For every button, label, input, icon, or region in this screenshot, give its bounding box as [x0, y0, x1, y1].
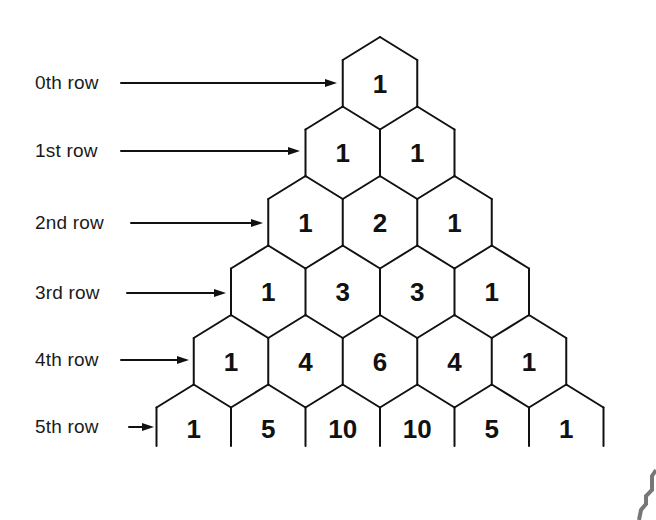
hexagon-edge	[157, 385, 194, 408]
arrowhead-icon	[177, 356, 189, 364]
hexagon-edge	[417, 385, 454, 408]
row-label: 1st row	[35, 141, 98, 160]
hexagon-edge	[417, 176, 454, 199]
hexagon-edge	[417, 107, 454, 130]
hexagon-cell-value: 1	[298, 210, 312, 236]
hexagon-edge	[306, 246, 343, 269]
hexagon-edge	[455, 315, 492, 338]
hexagon-edge	[194, 385, 231, 408]
hexagon-edge	[268, 315, 305, 338]
arrowhead-icon	[251, 219, 263, 227]
hexagon-cell-value: 4	[298, 349, 312, 375]
hexagon-edge	[306, 107, 343, 130]
hexagon-cell-value: 1	[485, 279, 499, 305]
hexagon-edge	[343, 37, 380, 60]
row-label: 5th row	[35, 417, 99, 436]
hexagon-edge	[380, 176, 417, 199]
hexagon-edge	[343, 107, 380, 130]
hexagon-edge	[566, 385, 603, 408]
hexagon-cell-value: 6	[373, 349, 387, 375]
hexagon-cell-value: 3	[336, 279, 350, 305]
hexagon-edge	[492, 315, 529, 338]
hexagon-cell-value: 1	[261, 279, 275, 305]
hexagon-edge	[380, 385, 417, 408]
hexagon-edge	[231, 385, 268, 408]
hexagon-edge	[343, 385, 380, 408]
hexagon-edge	[455, 176, 492, 199]
hexagon-cell-value: 5	[261, 416, 275, 442]
corner-scribble-mark	[639, 470, 656, 520]
hexagon-edge	[417, 315, 454, 338]
pascal-triangle-diagram: 0th row1st row2nd row3rd row4th row5th r…	[0, 0, 656, 520]
hexagon-edge	[268, 246, 305, 269]
hexagon-edge	[492, 385, 529, 408]
arrowhead-icon	[214, 289, 226, 297]
hexagon-edge	[380, 107, 417, 130]
hexagon-edge	[268, 176, 305, 199]
hexagon-edge	[306, 315, 343, 338]
hexagon-edge	[231, 315, 268, 338]
hexagon-edge	[306, 385, 343, 408]
hexagon-edge	[268, 385, 305, 408]
hexagon-edge	[529, 385, 566, 408]
hexagon-cell-value: 10	[403, 416, 432, 442]
hexagon-cell-value: 1	[187, 416, 201, 442]
hexagon-cell-value: 1	[522, 349, 536, 375]
hexagon-edge	[194, 315, 231, 338]
hexagon-edge	[231, 246, 268, 269]
hexagon-edge	[529, 315, 566, 338]
row-label: 3rd row	[35, 283, 100, 302]
row-label: 2nd row	[35, 213, 104, 232]
hexagon-edge	[455, 385, 492, 408]
hexagon-cell-value: 2	[373, 210, 387, 236]
hexagon-cell-value: 4	[447, 349, 461, 375]
hexagon-edge	[343, 246, 380, 269]
row-label: 4th row	[35, 350, 99, 369]
hexagon-edge	[343, 176, 380, 199]
hexagon-cell-value: 10	[328, 416, 357, 442]
hexagon-cell-value: 1	[336, 140, 350, 166]
arrowhead-icon	[142, 423, 154, 431]
hexagon-cell-value: 1	[373, 71, 387, 97]
hexagon-edge	[306, 176, 343, 199]
hexagon-edge	[455, 246, 492, 269]
row-label: 0th row	[35, 73, 99, 92]
hexagon-edge	[417, 246, 454, 269]
hexagon-cell-value: 5	[485, 416, 499, 442]
hexagon-cell-value: 1	[224, 349, 238, 375]
hexagon-edge	[380, 246, 417, 269]
arrowhead-icon	[325, 79, 337, 87]
hexagon-edge	[343, 315, 380, 338]
hexagon-cell-value: 1	[447, 210, 461, 236]
hexagon-edge	[492, 246, 529, 269]
hexagon-edge	[380, 37, 417, 60]
hexagon-cell-value: 3	[410, 279, 424, 305]
arrowhead-icon	[288, 147, 300, 155]
hexagon-cell-value: 1	[559, 416, 573, 442]
hexagon-cell-value: 1	[410, 140, 424, 166]
hexagon-edge	[380, 315, 417, 338]
